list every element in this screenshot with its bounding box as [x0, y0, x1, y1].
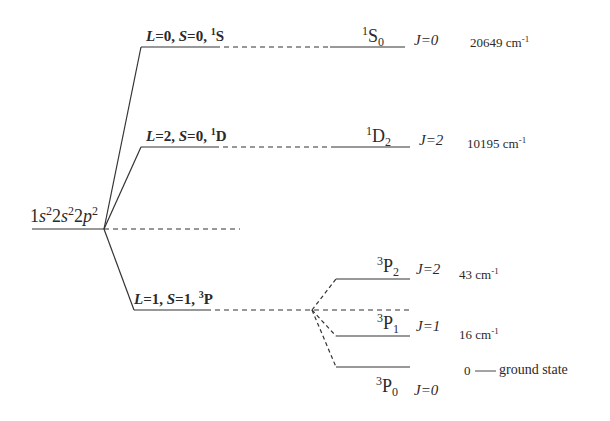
energy-unit-exp: -1 [522, 34, 530, 44]
level-3P2-label: 3P2 [377, 257, 399, 275]
term-3P-label: L=1, S=1, 3P [134, 292, 213, 307]
connector-to-1D [104, 147, 141, 229]
j-value: J=1 [416, 318, 440, 334]
term-letter: S [216, 28, 224, 44]
comma: , [191, 291, 195, 307]
comma: , [203, 128, 207, 144]
level-1D2-label: 1D2 [366, 127, 391, 145]
level-1D2-j: J=2 [419, 133, 443, 148]
config-p-exp: 2 [92, 204, 98, 218]
level-3P1-label: 3P1 [377, 314, 399, 332]
eq: = [155, 128, 164, 144]
level-1D2-energy: 10195 cm-1 [467, 137, 526, 150]
j-value: J=2 [419, 132, 443, 148]
energy-value: 10195 [467, 136, 500, 151]
config-n3: 2 [74, 206, 83, 226]
configuration-label: 1s22s22p2 [30, 207, 98, 225]
level-1S0-label: 1S0 [362, 27, 384, 45]
level-letter: P [382, 376, 392, 396]
connector-to-1S [104, 47, 141, 229]
j-value: J=0 [414, 32, 438, 48]
level-j-sub: 2 [393, 265, 399, 279]
eq: = [143, 291, 152, 307]
level-1S0-j: J=0 [414, 33, 438, 48]
level-3P2-j: J=2 [416, 262, 440, 277]
ground-state-text: ground state [499, 362, 568, 377]
comma: , [203, 28, 207, 44]
eq: = [187, 28, 196, 44]
term-letter: P [204, 291, 213, 307]
energy-value: 20649 [470, 35, 503, 50]
connector-to-3P0 [312, 310, 336, 367]
energy-value: 16 [459, 327, 472, 342]
level-letter: S [368, 26, 378, 46]
connector-to-3P1 [312, 310, 336, 336]
s-symbol: S [179, 128, 187, 144]
term-1D-label: L=2, S=0, 1D [146, 129, 226, 144]
comma: , [159, 291, 163, 307]
energy-unit-exp: -1 [519, 135, 527, 145]
ground-state-note: ground state [499, 363, 568, 377]
j-value: J=0 [414, 382, 438, 398]
level-j-sub: 2 [385, 135, 391, 149]
level-j-sub: 1 [393, 322, 399, 336]
energy-unit: cm [506, 35, 522, 50]
l-symbol: L [146, 28, 155, 44]
connector-to-3P2 [312, 279, 336, 310]
level-3P1-energy: 16 cm-1 [459, 328, 499, 341]
energy-unit: cm [503, 136, 519, 151]
s-symbol: S [167, 291, 175, 307]
level-letter: P [383, 313, 393, 333]
s-symbol: S [179, 28, 187, 44]
level-3P0-j: J=0 [414, 383, 438, 398]
energy-unit: cm [475, 327, 491, 342]
eq: = [187, 128, 196, 144]
level-letter: P [383, 256, 393, 276]
config-n1: 1 [30, 206, 39, 226]
energy-value: 0 [464, 363, 471, 378]
eq: = [175, 291, 184, 307]
l-symbol: L [134, 291, 143, 307]
config-p: p [83, 206, 92, 226]
connector-to-3P [104, 229, 134, 310]
level-3P0-energy: 0 [464, 364, 471, 377]
term-1S-label: L=0, S=0, 1S [146, 29, 224, 44]
level-j-sub: 0 [392, 385, 398, 399]
term-letter: D [216, 128, 227, 144]
config-s2: s [61, 206, 68, 226]
l-symbol: L [146, 128, 155, 144]
energy-unit: cm [475, 267, 491, 282]
eq: = [155, 28, 164, 44]
level-3P2-energy: 43 cm-1 [459, 268, 499, 281]
energy-value: 43 [459, 267, 472, 282]
config-n2: 2 [52, 206, 61, 226]
comma: , [171, 128, 175, 144]
level-3P1-j: J=1 [416, 319, 440, 334]
energy-unit-exp: -1 [491, 266, 499, 276]
level-j-sub: 0 [378, 35, 384, 49]
level-3P0-label: 3P0 [376, 377, 398, 395]
energy-unit-exp: -1 [491, 326, 499, 336]
config-s1: s [39, 206, 46, 226]
level-1S0-energy: 20649 cm-1 [470, 36, 529, 49]
comma: , [171, 28, 175, 44]
j-value: J=2 [416, 261, 440, 277]
level-letter: D [372, 126, 385, 146]
